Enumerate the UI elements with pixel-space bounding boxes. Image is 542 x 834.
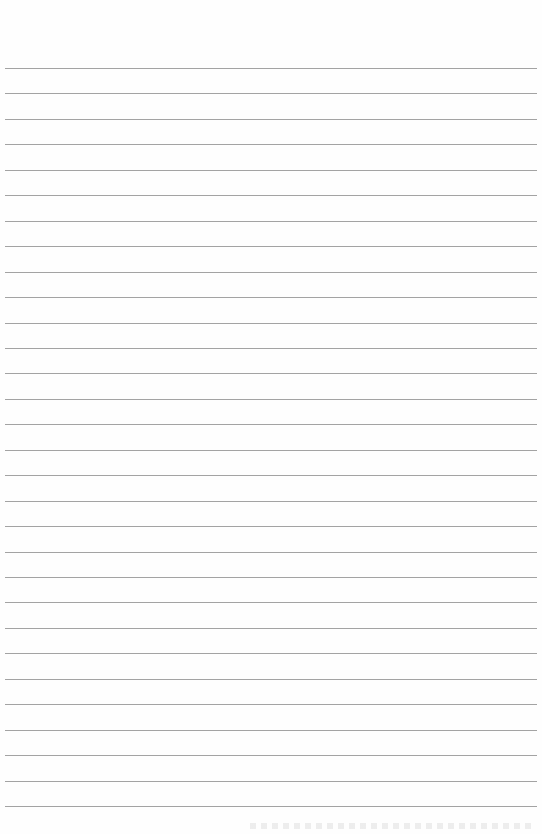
ruled-line <box>5 221 537 222</box>
ruled-line <box>5 119 537 120</box>
ruled-line <box>5 679 537 680</box>
ruled-line <box>5 68 537 69</box>
ruled-line <box>5 628 537 629</box>
ruled-line <box>5 424 537 425</box>
ruled-line <box>5 526 537 527</box>
ruled-line <box>5 450 537 451</box>
ruled-line <box>5 399 537 400</box>
faint-bleed-through-marks <box>250 823 535 829</box>
ruled-line <box>5 246 537 247</box>
ruled-line <box>5 144 537 145</box>
ruled-line <box>5 653 537 654</box>
ruled-line <box>5 297 537 298</box>
ruled-line <box>5 552 537 553</box>
ruled-line <box>5 501 537 502</box>
ruled-line <box>5 781 537 782</box>
lined-paper-page <box>0 0 542 834</box>
ruled-line <box>5 602 537 603</box>
ruled-line <box>5 755 537 756</box>
ruled-line <box>5 348 537 349</box>
ruled-line <box>5 704 537 705</box>
ruled-line <box>5 373 537 374</box>
ruled-line <box>5 195 537 196</box>
ruled-line <box>5 577 537 578</box>
ruled-line <box>5 170 537 171</box>
ruled-line <box>5 475 537 476</box>
ruled-line <box>5 323 537 324</box>
ruled-line <box>5 272 537 273</box>
ruled-line <box>5 730 537 731</box>
ruled-line <box>5 806 537 807</box>
ruled-line <box>5 93 537 94</box>
